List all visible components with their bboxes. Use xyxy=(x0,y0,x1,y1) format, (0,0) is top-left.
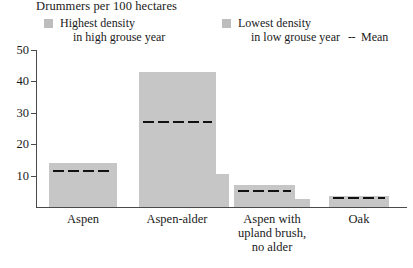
dashed-line-icon: -- xyxy=(348,31,355,45)
page-title: Drummers per 100 hectares xyxy=(36,0,177,14)
bar-lowest-density xyxy=(139,174,229,207)
legend-swatch-icon xyxy=(222,19,231,28)
y-axis-tick-mark xyxy=(31,144,36,145)
x-axis-category-label: Aspen-alder xyxy=(127,212,227,226)
bar-group xyxy=(234,44,310,207)
legend-label-highest-density: Highest density in high grouse year xyxy=(60,17,165,44)
legend-label-line2: in high grouse year xyxy=(73,31,165,45)
legend-label-mean: Mean xyxy=(361,30,388,44)
y-axis-tick-label: 20 xyxy=(17,138,30,151)
x-axis-category-label: Oak xyxy=(314,212,404,226)
bar-group xyxy=(49,44,117,207)
y-axis-line xyxy=(36,50,37,207)
bar-lowest-density xyxy=(63,194,117,207)
chart-figure: Drummers per 100 hectares Highest densit… xyxy=(0,0,413,268)
mean-line-marker xyxy=(53,170,113,172)
y-axis-tick-label: 50 xyxy=(17,44,30,57)
legend-label-lowest-density: Lowest density in low grouse year xyxy=(238,17,340,44)
y-axis-tick-label: 10 xyxy=(17,169,30,182)
y-axis-tick-label: 40 xyxy=(17,75,30,88)
x-axis-category-label: Aspen xyxy=(38,212,128,226)
y-axis-tick-mark xyxy=(31,50,36,51)
mean-line-marker xyxy=(238,190,291,192)
legend-item-mean: -- Mean xyxy=(348,31,388,45)
x-axis-line xyxy=(36,207,407,208)
y-axis-tick-label: 30 xyxy=(17,107,30,120)
legend-item-lowest-density: Lowest density in low grouse year xyxy=(222,17,340,44)
plot-area: 5040302010 xyxy=(36,44,409,208)
y-axis-tick-mark xyxy=(31,81,36,82)
bar-lowest-density xyxy=(234,199,310,207)
legend-label-line1: Highest density xyxy=(60,16,135,30)
x-axis-category-label: Aspen with upland brush, no alder xyxy=(222,212,322,254)
legend-label-line2: in low grouse year xyxy=(251,31,340,45)
y-axis-tick-mark xyxy=(31,176,36,177)
legend-swatch-icon xyxy=(44,19,53,28)
bar-group xyxy=(329,44,389,207)
legend-label-line1: Lowest density xyxy=(238,16,311,30)
legend-item-highest-density: Highest density in high grouse year xyxy=(44,17,165,44)
mean-line-marker xyxy=(143,121,212,123)
mean-line-marker xyxy=(333,197,385,199)
y-axis-tick-mark xyxy=(31,113,36,114)
bar-group xyxy=(139,44,229,207)
